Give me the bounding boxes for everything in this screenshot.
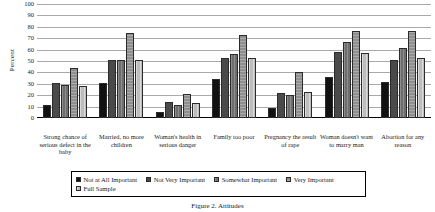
bar	[52, 83, 60, 118]
bar	[117, 60, 125, 118]
bar	[108, 60, 116, 118]
bar	[126, 33, 134, 119]
legend-item[interactable]: Not Very Important	[146, 175, 205, 184]
bar	[417, 58, 425, 118]
bar	[79, 86, 87, 118]
bar-chart: Percent 1009080706050403020100 Strong ch…	[0, 0, 435, 212]
y-tick-label: 70	[28, 35, 35, 42]
legend-swatch-icon	[214, 177, 219, 182]
bar	[165, 102, 173, 118]
bar	[61, 85, 69, 118]
bar	[248, 58, 256, 118]
bar	[334, 52, 342, 118]
legend-item[interactable]: Very Important	[286, 175, 334, 184]
bar	[361, 53, 369, 118]
bar-group	[150, 4, 206, 118]
legend-label: Full Sample	[84, 184, 116, 193]
bar	[156, 112, 164, 118]
x-axis-category-labels: Strong chance of serious defect in the b…	[37, 133, 431, 156]
y-tick-label: 100	[24, 1, 34, 8]
y-tick-label: 0	[31, 115, 34, 122]
y-tick-label: 60	[28, 46, 35, 53]
bar	[239, 35, 247, 118]
bar	[295, 72, 303, 118]
bar	[325, 77, 333, 118]
plot-area: Percent 1009080706050403020100	[0, 4, 435, 132]
bar	[192, 103, 200, 118]
bar	[304, 92, 312, 118]
bar	[70, 68, 78, 118]
legend-swatch-icon	[146, 177, 151, 182]
legend-item[interactable]: Not at All Important	[76, 175, 137, 184]
legend-swatch-icon	[76, 186, 81, 191]
legend: Not at All ImportantNot Very ImportantSo…	[71, 171, 366, 197]
x-axis-category-label: Pregnancy the result of rape	[262, 133, 318, 156]
x-axis-category-label: Abortion for any reason	[375, 133, 431, 156]
bar	[230, 54, 238, 118]
bar	[43, 105, 51, 118]
legend-label: Very Important	[294, 175, 334, 184]
y-tick-label: 90	[28, 12, 35, 19]
legend-swatch-icon	[286, 177, 291, 182]
bar	[174, 105, 182, 118]
legend-label: Somewhat Important	[222, 175, 278, 184]
y-tick-label: 20	[28, 92, 35, 99]
bar-group	[37, 4, 93, 118]
bar-group	[206, 4, 262, 118]
bar-group	[93, 4, 149, 118]
bar	[212, 79, 220, 118]
y-tick-label: 40	[28, 69, 35, 76]
bar-group	[262, 4, 318, 118]
legend-item[interactable]: Somewhat Important	[214, 175, 277, 184]
bar	[352, 31, 360, 118]
y-tick-label: 10	[28, 103, 35, 110]
bar-group	[318, 4, 374, 118]
legend-items: Not at All ImportantNot Very ImportantSo…	[76, 175, 361, 193]
y-tick-label: 30	[28, 81, 35, 88]
bar	[390, 60, 398, 118]
bar-groups	[37, 4, 431, 118]
bar-group	[375, 4, 431, 118]
x-axis-category-label: Woman doesn't want to marry man	[318, 133, 374, 156]
bar	[277, 93, 285, 118]
y-tick-label: 80	[28, 24, 35, 31]
figure-caption: Figure 2. Attitudes	[0, 202, 435, 212]
x-axis-category-label: Woman's health in serious danger	[150, 133, 206, 156]
bar	[408, 31, 416, 118]
legend-item[interactable]: Full Sample	[76, 184, 116, 193]
bar	[343, 42, 351, 118]
bar	[381, 82, 389, 118]
legend-label: Not Very Important	[154, 175, 206, 184]
bar	[221, 58, 229, 118]
legend-swatch-icon	[76, 177, 81, 182]
legend-label: Not at All Important	[84, 175, 138, 184]
x-axis-category-label: Married, no more children	[93, 133, 149, 156]
bar	[99, 83, 107, 118]
x-axis-category-label: Family too poor	[206, 133, 262, 156]
y-axis-ticks: 1009080706050403020100	[10, 4, 34, 118]
bar	[286, 95, 294, 118]
bar	[183, 94, 191, 118]
x-axis-category-label: Strong chance of serious defect in the b…	[37, 133, 93, 156]
bar	[268, 108, 276, 118]
bar	[135, 60, 143, 118]
bar	[399, 48, 407, 118]
y-tick-label: 50	[28, 58, 35, 65]
